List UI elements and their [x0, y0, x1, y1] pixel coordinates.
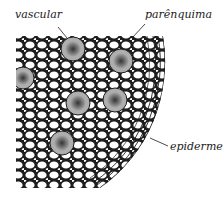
- stem-cross-section-drawing: [0, 0, 223, 198]
- label-parenchyma: parênquima: [145, 9, 212, 21]
- parenchyma-tissue: [12, 36, 166, 191]
- label-vascular: vascular: [15, 9, 62, 21]
- epidermis-leader-line: [150, 138, 168, 146]
- label-epidermis: epiderme: [170, 141, 223, 153]
- parenchyma-leader-line: [132, 24, 145, 38]
